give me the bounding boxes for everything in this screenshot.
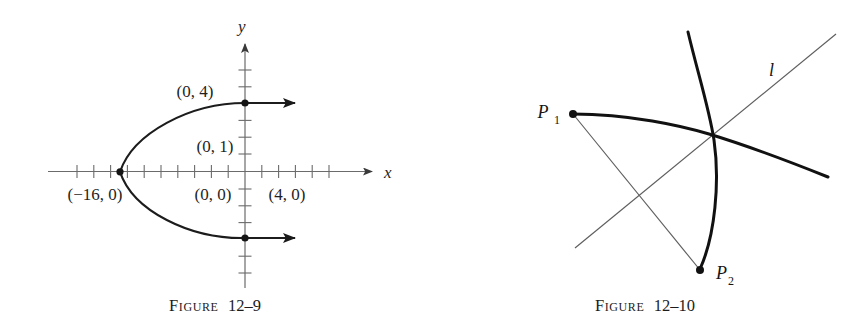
parabola-path [120,103,245,238]
figure-page: x y [0,0,860,329]
label-neg16-0: (−16, 0) [68,185,123,204]
figure-12-9-caption-prefix: Figure [169,296,218,315]
point-p2-dot [696,266,704,274]
marked-points [116,99,248,241]
upper-curve-point [241,99,248,106]
point-p1-dot [569,110,577,118]
figure-12-10-caption-number: 12–10 [654,296,695,315]
point-p2-label: P [715,263,727,283]
vertex-point [116,168,123,175]
x-axis: x [48,163,392,182]
point-p2-subscript: 2 [728,274,734,288]
x-axis-label: x [383,163,392,182]
figure-12-10-graphic: P 1 P 2 l [430,0,860,296]
figure-12-10-labels: P 1 P 2 l [537,60,775,288]
lower-curve-point [241,234,248,241]
segment-p1-p2 [573,114,700,270]
point-p1-subscript: 1 [554,113,560,127]
coordinate-labels: (0, 4) (0, 1) (0, 0) (4, 0) (−16, 0) [68,82,306,204]
figure-12-10-caption-prefix: Figure [595,296,644,315]
line-l-label: l [769,60,774,80]
figure-12-10-panel: P 1 P 2 l Figure 12–10 [430,0,860,329]
label-4-0: (4, 0) [269,185,306,204]
y-axis-label: y [236,17,246,36]
label-0-1: (0, 1) [197,137,234,156]
figure-12-9-caption: Figure 12–9 [0,296,430,316]
figure-12-9-graphic: x y [0,0,430,296]
y-axis: y [236,17,252,288]
arc-through-p2 [688,32,716,269]
line-l [575,34,836,248]
figure-12-9-caption-number: 12–9 [228,296,261,315]
point-p1-label: P [537,102,549,122]
parabola-curve [120,103,295,238]
label-0-4: (0, 4) [177,82,214,101]
figure-12-9-panel: x y [0,0,430,329]
figure-12-10-caption: Figure 12–10 [430,296,860,316]
label-0-0: (0, 0) [195,185,232,204]
